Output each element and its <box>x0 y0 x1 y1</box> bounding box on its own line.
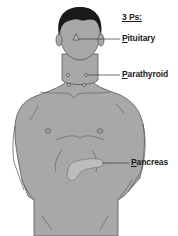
label-parathyroid: Parathyroid <box>122 70 168 79</box>
label-parathyroid-rest: arathyroid <box>128 69 169 79</box>
parathyroid-gland-upper-right <box>84 73 87 76</box>
parathyroid-gland-lower-left <box>67 83 70 86</box>
right-nipple <box>97 129 103 134</box>
left-nipple <box>45 129 51 134</box>
label-pituitary: Pituitary <box>122 34 155 43</box>
label-pancreas: Pancreas <box>131 158 168 167</box>
label-pituitary-rest: ituitary <box>128 33 156 43</box>
label-pancreas-rest: ancreas <box>137 157 168 167</box>
parathyroid-gland-upper-left <box>66 73 69 76</box>
parathyroid-gland-lower-right <box>82 83 85 86</box>
torso-silhouette <box>15 78 145 236</box>
diagram-title: 3 Ps: <box>122 13 142 22</box>
